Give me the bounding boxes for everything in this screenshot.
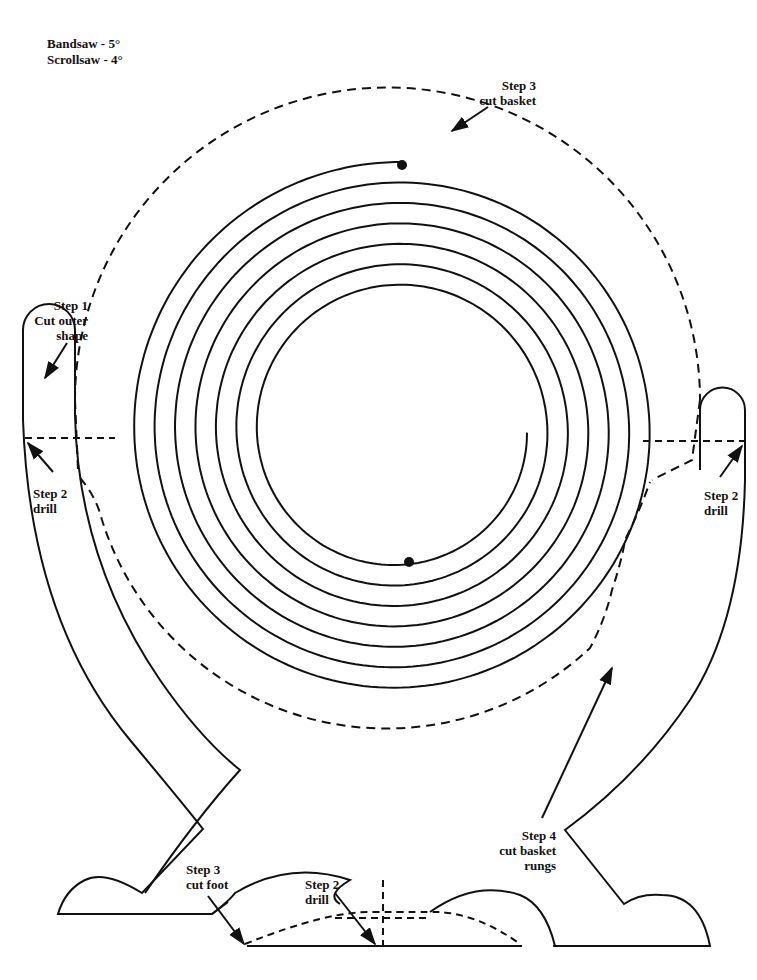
label-line: cut foot [186,877,228,892]
spiral-end-dot [404,557,414,567]
label-line: drill [305,892,339,907]
label-line: Step 3 [186,862,228,877]
drill-lines [25,438,745,441]
label-line: Step 2 [305,877,339,892]
label-line: Step 2 [33,486,67,501]
foot-dashed-lines [245,880,520,946]
label-line: cut basket [470,843,556,858]
step3-basket-label: Step 3 cut basket [466,78,536,108]
step2-left-label: Step 2 drill [33,486,67,516]
label-line: Step 3 [466,78,536,93]
label-line: cut basket [466,93,536,108]
step1-label: Step 1 Cut outer shape [14,298,88,343]
pattern-drawing [0,0,757,980]
step2-bottom-label: Step 2 drill [305,877,339,907]
outer-shape [23,304,745,946]
label-line: drill [704,503,738,518]
label-line: Step 2 [704,488,738,503]
step4-label: Step 4 cut basket rungs [470,828,556,873]
label-line: Step 1 [14,298,88,313]
bandsaw-angle-label: Bandsaw - 5° [47,36,120,51]
spiral-rungs [134,162,649,688]
step2-right-label: Step 2 drill [704,488,738,518]
label-line: shape [14,328,88,343]
step3-foot-label: Step 3 cut foot [186,862,228,892]
label-line: Step 4 [470,828,556,843]
spiral-start-dot [397,160,407,170]
scrollsaw-angle-label: Scrollsaw - 4° [47,52,123,67]
annotation-arrows [28,107,742,944]
label-line: rungs [470,858,556,873]
label-line: Cut outer [14,313,88,328]
label-line: drill [33,501,67,516]
